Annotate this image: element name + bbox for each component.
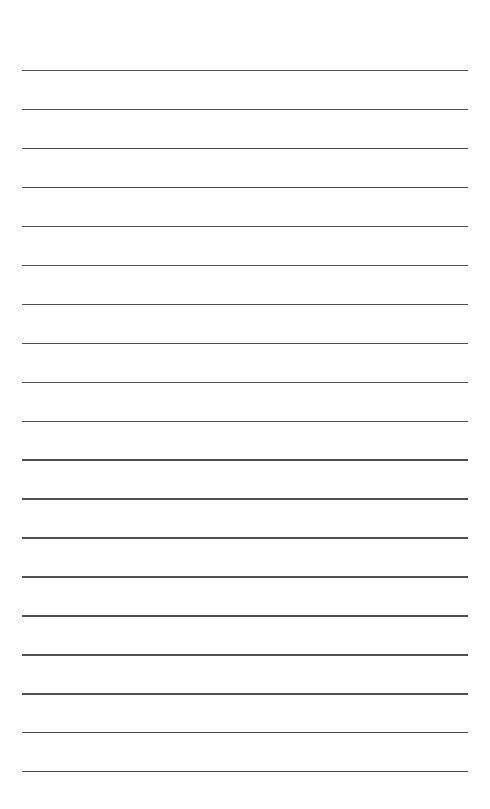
ruled-line — [22, 187, 468, 188]
ruled-line — [22, 537, 468, 538]
ruled-line — [22, 148, 468, 149]
ruled-line — [22, 109, 468, 110]
ruled-line — [22, 732, 468, 733]
ruled-line — [22, 576, 468, 577]
ruled-line — [22, 498, 468, 499]
ruled-line — [22, 615, 468, 616]
ruled-line — [22, 226, 468, 227]
ruled-line — [22, 654, 468, 655]
lined-paper-page — [0, 0, 490, 809]
ruled-line — [22, 771, 468, 772]
ruled-line — [22, 70, 468, 71]
ruled-line — [22, 382, 468, 383]
ruled-line — [22, 693, 468, 694]
ruled-line — [22, 459, 468, 460]
ruled-line — [22, 421, 468, 422]
ruled-line — [22, 343, 468, 344]
ruled-line — [22, 304, 468, 305]
ruled-line — [22, 265, 468, 266]
